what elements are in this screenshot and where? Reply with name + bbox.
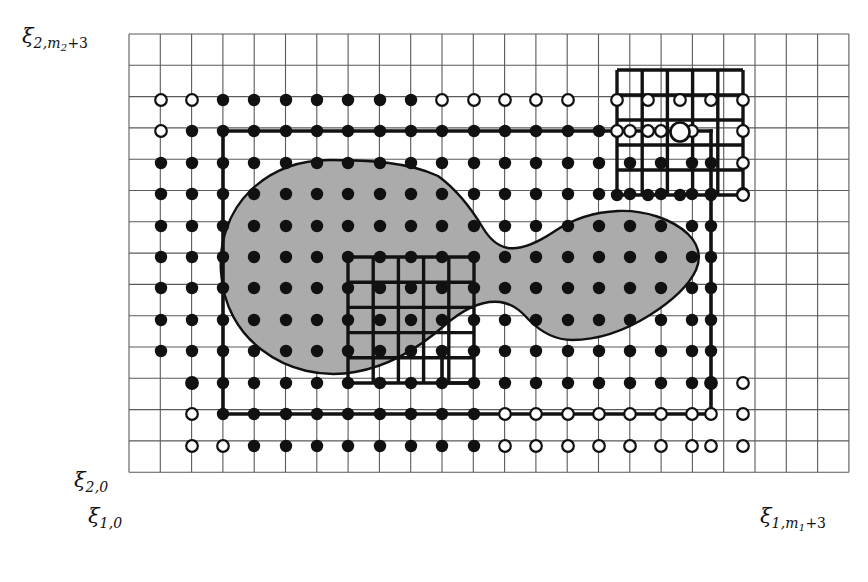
grid-node-open [624,408,636,420]
grid-node-open [530,440,542,452]
grid-node-filled [342,314,354,326]
grid-node-filled [374,94,386,106]
grid-node-filled [217,377,229,389]
grid-node-filled [405,125,417,137]
grid-node-filled [530,314,542,326]
grid-node-filled [248,251,260,263]
grid-node-filled [655,345,667,357]
grid-node-filled [468,440,480,452]
grid-node-filled [562,282,574,294]
grid-figure-svg [0,0,868,582]
grid-node-open [674,94,686,106]
grid-node-open [611,125,623,137]
corner-big-node-circle [671,123,690,142]
grid-node-filled [217,220,229,232]
grid-node-filled [593,125,605,137]
grid-node-open [186,440,198,452]
grid-node-filled [374,220,386,232]
grid-node-filled [280,377,292,389]
grid-node-filled [405,345,417,357]
grid-node-filled [499,377,511,389]
grid-node-filled [624,377,636,389]
grid-node-filled [655,220,667,232]
grid-node-filled [280,94,292,106]
axis-label-x-left-sub: 1,0 [100,515,123,531]
grid-node-filled [705,314,717,326]
grid-node-filled [186,282,198,294]
grid-node-open [155,125,167,137]
grid-node-open [737,377,749,389]
grid-node-filled [499,125,511,137]
grid-node-filled [624,220,636,232]
grid-node-filled [311,314,323,326]
grid-node-filled [562,125,574,137]
grid-node-filled [280,157,292,169]
grid-node-open [499,408,511,420]
grid-node-filled [686,220,698,232]
grid-node-filled [374,345,386,357]
grid-node-open [186,408,198,420]
axis-label-y-top: ξ2,m2+3 [22,24,88,48]
grid-node-filled [624,188,636,200]
grid-node-filled [405,377,417,389]
grid-node-filled [499,157,511,169]
grid-node-filled [186,377,198,389]
grid-node-filled [436,314,448,326]
grid-node-filled [686,157,698,169]
grid-node-filled [405,188,417,200]
grid-node-filled [530,125,542,137]
grid-node-filled [436,282,448,294]
grid-node-filled [248,94,260,106]
grid-node-filled [280,188,292,200]
grid-node-filled [311,251,323,263]
grid-node-filled [217,251,229,263]
grid-node-filled [611,189,623,201]
grid-node-filled [468,314,480,326]
grid-node-filled [593,251,605,263]
grid-node-filled [642,189,654,201]
grid-node-open [737,94,749,106]
grid-node-filled [705,345,717,357]
grid-node-filled [655,314,667,326]
axis-label-y-bottom-symbol: ξ [74,468,86,492]
grid-node-open [655,408,667,420]
grid-node-filled [499,220,511,232]
grid-node-filled [562,314,574,326]
grid-node-filled [248,345,260,357]
grid-node-filled [593,377,605,389]
grid-node-filled [311,282,323,294]
grid-node-filled [436,440,448,452]
grid-node-filled [248,408,260,420]
grid-node-filled [155,282,167,294]
grid-node-filled [374,188,386,200]
axis-label-x-right-symbol: ξ [760,504,772,528]
grid-node-filled [562,188,574,200]
grid-node-filled [186,314,198,326]
grid-node-open [642,94,654,106]
grid-node-filled [686,282,698,294]
grid-node-filled [248,188,260,200]
grid-node-open [499,94,511,106]
grid-node-open [217,440,229,452]
grid-node-filled [468,282,480,294]
grid-node-filled [405,282,417,294]
grid-node-filled [436,408,448,420]
grid-node-filled [374,408,386,420]
grid-node-open [530,94,542,106]
grid-node-filled [374,314,386,326]
grid-node-open [593,440,605,452]
grid-node-filled [405,157,417,169]
grid-node-filled [655,377,667,389]
grid-node-filled [217,408,229,420]
grid-node-open [499,440,511,452]
grid-node-filled [562,377,574,389]
grid-node-filled [248,440,260,452]
grid-node-open [468,94,480,106]
grid-node-filled [186,157,198,169]
grid-node-filled [342,188,354,200]
grid-node-filled [217,282,229,294]
grid-node-open [642,125,654,137]
figure-root: ξ2,m2+3 ξ2,0 ξ1,0 ξ1,m1+3 [0,0,868,582]
grid-node-open [705,440,717,452]
grid-node-open [624,440,636,452]
